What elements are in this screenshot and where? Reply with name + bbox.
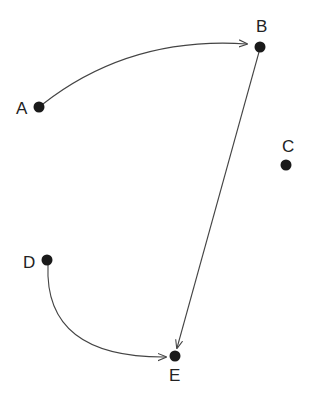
node-label: B — [256, 17, 267, 36]
edge-d-to-e-arrow — [48, 265, 166, 357]
node-dot-icon — [170, 351, 181, 362]
node-label: E — [169, 366, 180, 385]
node-dot-icon — [255, 42, 266, 53]
node-e: E — [169, 351, 181, 386]
node-dot-icon — [281, 160, 292, 171]
edge-b-to-e-arrow — [177, 52, 259, 348]
nodes-layer: ABCDE — [16, 17, 294, 385]
node-label: A — [16, 99, 28, 118]
edges-layer — [43, 43, 259, 357]
node-a: A — [16, 99, 45, 118]
edge-a-to-b-arrow — [43, 43, 247, 104]
node-c: C — [281, 137, 295, 171]
node-label: C — [282, 137, 294, 156]
node-dot-icon — [42, 255, 53, 266]
graph-diagram: ABCDE — [0, 0, 310, 399]
node-label: D — [23, 253, 35, 272]
node-b: B — [255, 17, 268, 53]
node-dot-icon — [34, 102, 45, 113]
